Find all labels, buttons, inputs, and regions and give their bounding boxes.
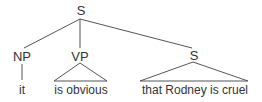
- vp-triangle: [54, 63, 107, 81]
- node-embedded-s: S: [190, 49, 199, 62]
- edge-s-np: [24, 19, 80, 48]
- node-np: NP: [13, 50, 31, 63]
- edge-s-s: [80, 19, 192, 48]
- node-root-s: S: [77, 4, 86, 17]
- leaf-that-rodney-is-cruel: that Rodney is cruel: [142, 84, 248, 96]
- leaf-it: it: [19, 84, 25, 96]
- leaf-is-obvious: is obvious: [54, 84, 107, 96]
- s-triangle: [140, 62, 248, 81]
- node-vp: VP: [71, 50, 88, 63]
